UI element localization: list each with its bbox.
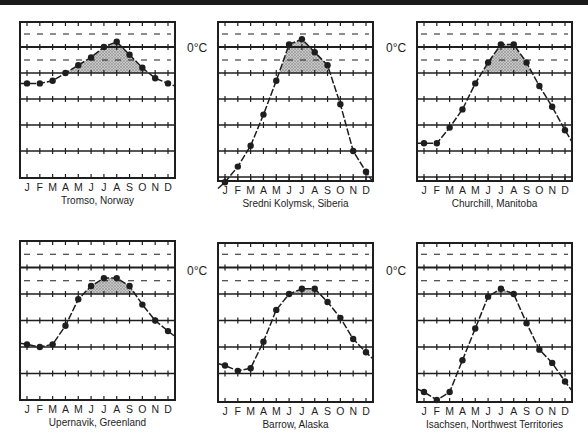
data-point bbox=[446, 389, 452, 395]
month-label: A bbox=[113, 403, 120, 415]
month-label: J bbox=[485, 184, 490, 196]
data-point bbox=[511, 41, 517, 47]
month-label: A bbox=[510, 184, 517, 196]
data-point bbox=[459, 106, 465, 112]
data-point bbox=[139, 65, 145, 71]
data-point bbox=[511, 291, 517, 297]
data-point bbox=[139, 301, 145, 307]
month-label: A bbox=[62, 403, 69, 415]
data-point bbox=[152, 75, 158, 81]
chart-title: Tromso, Norway bbox=[61, 195, 134, 206]
data-point bbox=[62, 70, 68, 76]
month-label: S bbox=[126, 181, 133, 193]
month-label: O bbox=[336, 184, 344, 196]
month-label: D bbox=[362, 184, 370, 196]
gridlines bbox=[218, 243, 373, 402]
data-point bbox=[126, 52, 132, 58]
month-label: J bbox=[222, 184, 227, 196]
data-point bbox=[562, 378, 568, 384]
data-point bbox=[273, 307, 279, 313]
data-point bbox=[472, 80, 478, 86]
month-label: M bbox=[272, 184, 281, 196]
month-label: J bbox=[286, 405, 291, 417]
data-point bbox=[165, 80, 171, 86]
above-freezing-shading bbox=[225, 39, 366, 182]
month-label: S bbox=[324, 184, 331, 196]
above-freezing-shading bbox=[27, 278, 168, 347]
data-point bbox=[260, 111, 266, 117]
month-label: N bbox=[349, 405, 357, 417]
data-point bbox=[472, 325, 478, 331]
month-label: M bbox=[445, 184, 454, 196]
data-point bbox=[549, 360, 555, 366]
above-freezing-shading bbox=[424, 289, 565, 400]
data-point bbox=[485, 293, 491, 299]
month-label: O bbox=[535, 405, 543, 417]
data-point bbox=[498, 286, 504, 292]
month-label: A bbox=[311, 405, 318, 417]
above-freezing-shading bbox=[27, 42, 168, 84]
data-point bbox=[299, 286, 305, 292]
data-point bbox=[165, 328, 171, 334]
data-point bbox=[312, 49, 318, 55]
gridlines bbox=[417, 243, 572, 402]
data-point bbox=[434, 397, 440, 403]
data-point bbox=[523, 59, 529, 65]
data-point bbox=[562, 127, 568, 133]
data-point bbox=[49, 78, 55, 84]
data-point bbox=[363, 169, 369, 175]
gridlines bbox=[20, 22, 175, 178]
data-point bbox=[260, 339, 266, 345]
data-point bbox=[62, 323, 68, 329]
month-label: J bbox=[299, 405, 304, 417]
month-label: D bbox=[561, 184, 569, 196]
month-label: M bbox=[48, 181, 57, 193]
month-label: M bbox=[272, 405, 281, 417]
data-point bbox=[235, 368, 241, 374]
data-point bbox=[222, 362, 228, 368]
data-point bbox=[337, 101, 343, 107]
month-label: D bbox=[362, 405, 370, 417]
month-axis: JFMAMJJASOND bbox=[24, 181, 172, 193]
chart-title: Sredni Kolymsk, Siberia bbox=[242, 198, 349, 209]
month-label: J bbox=[101, 181, 106, 193]
month-label: J bbox=[286, 184, 291, 196]
month-label: N bbox=[349, 184, 357, 196]
data-point bbox=[350, 336, 356, 342]
data-point bbox=[523, 320, 529, 326]
month-label: M bbox=[246, 184, 255, 196]
data-point bbox=[75, 296, 81, 302]
month-label: S bbox=[126, 403, 133, 415]
month-label: J bbox=[299, 184, 304, 196]
month-label: J bbox=[421, 405, 426, 417]
month-label: A bbox=[459, 184, 466, 196]
month-label: M bbox=[48, 403, 57, 415]
month-label: A bbox=[113, 181, 120, 193]
data-point bbox=[247, 143, 253, 149]
month-label: J bbox=[421, 184, 426, 196]
month-label: D bbox=[164, 403, 172, 415]
month-label: A bbox=[260, 405, 267, 417]
month-label: M bbox=[471, 405, 480, 417]
month-label: A bbox=[510, 405, 517, 417]
month-axis: JFMAMJJASOND bbox=[421, 184, 569, 196]
data-point bbox=[324, 62, 330, 68]
data-point bbox=[273, 78, 279, 84]
month-label: J bbox=[24, 181, 29, 193]
data-point bbox=[312, 286, 318, 292]
chart-title: Isachsen, Northwest Territories bbox=[426, 419, 563, 430]
data-point bbox=[299, 36, 305, 42]
month-label: A bbox=[260, 184, 267, 196]
data-point bbox=[324, 299, 330, 305]
month-label: J bbox=[24, 403, 29, 415]
chart-panel: JFMAMJJASONDIsachsen, Northwest Territor… bbox=[417, 243, 572, 430]
chart-title: Churchill, Manitoba bbox=[452, 198, 538, 209]
month-label: S bbox=[523, 184, 530, 196]
data-point bbox=[88, 54, 94, 60]
temperature-curve bbox=[417, 289, 572, 400]
zero-celsius-label: 0°C bbox=[386, 41, 406, 55]
chart-panel: JFMAMJJASONDTromso, Norway bbox=[20, 22, 175, 206]
month-label: M bbox=[445, 405, 454, 417]
zero-celsius-label: 0°C bbox=[187, 41, 207, 55]
month-label: O bbox=[138, 181, 146, 193]
